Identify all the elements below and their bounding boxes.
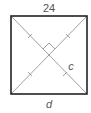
square-diagram: 24 d c — [0, 0, 91, 113]
diagonal-segment-label: c — [68, 60, 74, 72]
bottom-side-label: d — [46, 98, 53, 110]
right-angle-marker — [43, 43, 55, 49]
tick-mark-lower-right — [63, 72, 67, 76]
top-side-label: 24 — [43, 2, 55, 14]
